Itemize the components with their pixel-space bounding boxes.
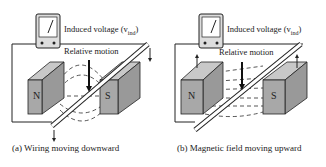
- caption: (a) Wiring moving downward: [12, 143, 119, 153]
- relative-motion-label: Relative motion: [219, 47, 274, 57]
- panel-field-moving-upward: Induced voltage (vind) Relative motion N…: [163, 0, 326, 167]
- caption: (b) Magnetic field moving upward: [177, 143, 301, 153]
- voltmeter-icon: [199, 14, 223, 48]
- north-pole-label: N: [188, 90, 195, 101]
- relative-motion-label: Relative motion: [64, 46, 119, 56]
- induced-voltage-label: Induced voltage (vind): [64, 24, 138, 36]
- north-magnet: [28, 62, 64, 114]
- south-pole-label: S: [271, 90, 277, 101]
- induced-voltage-label: Induced voltage (vind): [227, 24, 301, 36]
- north-pole-label: N: [33, 90, 40, 101]
- voltmeter-icon: [36, 14, 60, 48]
- south-pole-label: S: [105, 90, 111, 101]
- north-magnet: [181, 62, 223, 114]
- panel-wiring-moving-downward: Induced voltage (vind) Relative motion N…: [0, 0, 163, 167]
